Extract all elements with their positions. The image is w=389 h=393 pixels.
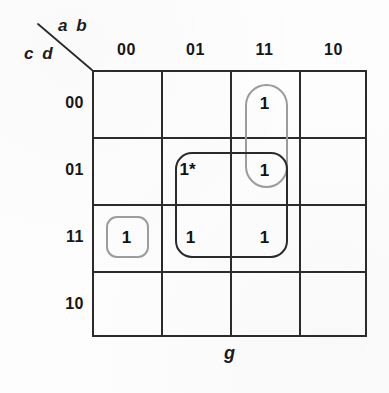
cell-r00-c10[interactable] (299, 70, 368, 137)
column-header-0: 00 (92, 41, 161, 59)
cell-r01-c10[interactable] (299, 137, 368, 204)
cell-r10-c00[interactable] (92, 271, 161, 338)
cell-r00-c01[interactable] (161, 70, 230, 137)
row-header-1: 01 (28, 161, 84, 179)
row-variables-label: c d (24, 44, 55, 64)
cell-r10-c01[interactable] (161, 271, 230, 338)
row-header-0: 00 (28, 94, 84, 112)
column-header-3: 10 (299, 41, 368, 59)
cell-r01-c00[interactable] (92, 137, 161, 204)
karnaugh-map-figure: a b c d 00 01 11 10 00 01 11 10 1 (0, 0, 389, 393)
column-variables-label: a b (58, 16, 89, 36)
column-header-2: 11 (230, 41, 299, 59)
column-header-1: 01 (161, 41, 230, 59)
row-header-3: 10 (28, 295, 84, 313)
cell-r00-c00[interactable] (92, 70, 161, 137)
kmap-grid: 1 1* 1 1 1 1 (92, 70, 367, 337)
cell-r10-c10[interactable] (299, 271, 368, 338)
group-column00-row11[interactable] (106, 216, 149, 258)
row-header-2: 11 (28, 228, 84, 246)
cell-r11-c10[interactable] (299, 204, 368, 271)
cell-r10-c11[interactable] (230, 271, 299, 338)
group-columns01-11-rows01-11[interactable] (175, 152, 288, 258)
function-label: g (92, 343, 367, 364)
